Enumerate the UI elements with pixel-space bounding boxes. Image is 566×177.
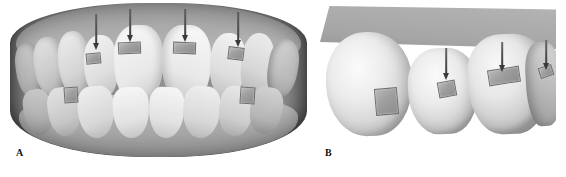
arrow-3 xyxy=(181,9,189,42)
arrow-shaft xyxy=(501,42,503,66)
arrow-1 xyxy=(442,48,450,80)
attachment-face xyxy=(374,87,399,116)
attachment-face xyxy=(63,87,78,104)
arrow-3 xyxy=(542,40,550,70)
figure-canvas: A B xyxy=(0,0,566,177)
attachment-face xyxy=(239,86,255,104)
arrow-shaft xyxy=(545,40,547,64)
arrow-shaft xyxy=(129,9,131,36)
panel-a xyxy=(10,3,307,157)
arrow-head xyxy=(499,65,505,72)
arrow-2 xyxy=(126,9,134,42)
arrow-head xyxy=(235,40,241,47)
arrow-head xyxy=(543,63,549,70)
attachment-lower-right-premolar xyxy=(63,87,78,104)
arrow-2 xyxy=(498,42,506,72)
attachment-face xyxy=(437,80,458,99)
arrow-head xyxy=(443,73,449,80)
attachment-face xyxy=(227,46,244,61)
attachment-face xyxy=(118,41,142,54)
arrow-4 xyxy=(234,12,242,47)
arrow-shaft xyxy=(237,12,239,41)
attachment-upper-right-central xyxy=(118,41,142,54)
panel-b-caption: B xyxy=(325,148,332,158)
attachment-upper-right-lateral xyxy=(85,52,101,65)
attachment-upper-left-central xyxy=(173,42,196,55)
arrow-shaft xyxy=(184,9,186,36)
attachment-face xyxy=(85,52,101,65)
attachment-mesial-large xyxy=(374,87,399,116)
arrow-1 xyxy=(92,14,100,50)
arrow-head xyxy=(182,35,188,42)
arrow-shaft xyxy=(95,14,97,44)
panel-b xyxy=(320,6,556,146)
arrow-head xyxy=(127,35,133,42)
panel-a-caption: A xyxy=(16,148,23,158)
attachment-face xyxy=(173,42,196,55)
attachment-middle xyxy=(437,80,458,99)
arrow-shaft xyxy=(445,48,447,74)
attachment-upper-left-lateral xyxy=(227,46,244,61)
tooth-b-mesial xyxy=(323,30,414,138)
arrow-head xyxy=(93,43,99,50)
attachment-lower-left-premolar xyxy=(239,86,255,104)
